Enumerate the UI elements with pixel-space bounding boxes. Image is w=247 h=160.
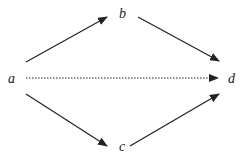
edge-c-to-d (130, 94, 219, 146)
node-b-label: b (119, 7, 126, 21)
node-d-label: d (228, 72, 235, 86)
edge-b-to-d (138, 17, 219, 61)
edge-a-to-b (26, 17, 107, 62)
node-c-label: c (119, 140, 125, 154)
diagram-canvas (0, 0, 247, 160)
node-a-label: a (8, 72, 15, 86)
edge-a-to-c (26, 94, 107, 146)
